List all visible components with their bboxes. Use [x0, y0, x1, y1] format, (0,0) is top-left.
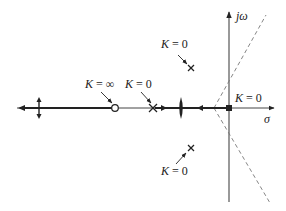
label-pole-origin: K = 0	[234, 91, 262, 105]
label-pole-upper: K = 0	[160, 37, 188, 51]
asymptote-lower	[214, 108, 270, 203]
zero-marker	[112, 105, 119, 112]
real-axis-label: σ	[264, 112, 271, 126]
pole-marker-origin	[226, 105, 232, 111]
root-locus-diagram: jω σ K = 0 K = ∞ K = 0 K = 0 K = 0	[0, 0, 286, 211]
pole-marker-upper	[188, 65, 194, 71]
label-zero: K = ∞	[84, 77, 114, 91]
label-pole-real: K = 0	[124, 77, 152, 91]
breakaway-marker-middle	[179, 97, 183, 119]
imag-axis-label: jω	[234, 9, 248, 23]
annotation-arrow-pole-upper	[178, 55, 187, 64]
annotation-arrow-pole-lower	[176, 153, 186, 164]
locus-arrow-right	[161, 105, 167, 111]
locus-arrow-leftward	[197, 105, 203, 111]
pole-marker-lower	[188, 145, 194, 151]
annotation-arrow-pole-real	[141, 92, 151, 103]
annotation-arrow-zero	[101, 92, 112, 103]
locus-arrow-left	[18, 105, 25, 111]
label-pole-lower: K = 0	[160, 164, 188, 178]
